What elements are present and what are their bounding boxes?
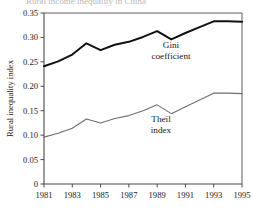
theil-annotation-line2: index (151, 125, 172, 135)
y-tick-label: 0.25 (23, 57, 38, 67)
x-tick-label: 1995 (233, 190, 250, 200)
x-tick-label: 1993 (205, 190, 222, 200)
gini-annotation-line2: coefficient (151, 51, 191, 61)
y-tick-label: 0.15 (23, 106, 38, 116)
x-tick-label: 1983 (64, 190, 81, 200)
x-tick-label: 1981 (35, 190, 52, 200)
x-tick-label: 1989 (149, 190, 166, 200)
gini-annotation-line1: Gini (163, 40, 180, 50)
y-tick-label: 0 (34, 179, 38, 189)
y-tick-label: 0.30 (23, 32, 38, 42)
gini-coefficient-line (44, 21, 242, 66)
theil-index-line (44, 93, 242, 137)
theil-annotation-line1: Theil (151, 114, 171, 124)
x-tick-label: 1987 (120, 190, 138, 200)
y-tick-label: 0.35 (23, 8, 38, 18)
x-tick-label: 1985 (92, 190, 109, 200)
y-tick-label: 0.20 (23, 81, 38, 91)
x-tick-label: 1991 (177, 190, 194, 200)
chart-figure: Rural income inequality in China 00.050.… (0, 0, 253, 213)
line-chart: 00.050.100.150.200.250.300.3519811983198… (0, 0, 253, 213)
y-tick-label: 0.10 (23, 130, 38, 140)
y-axis-title: Rural inequality index (5, 59, 15, 137)
y-tick-label: 0.05 (23, 155, 38, 165)
